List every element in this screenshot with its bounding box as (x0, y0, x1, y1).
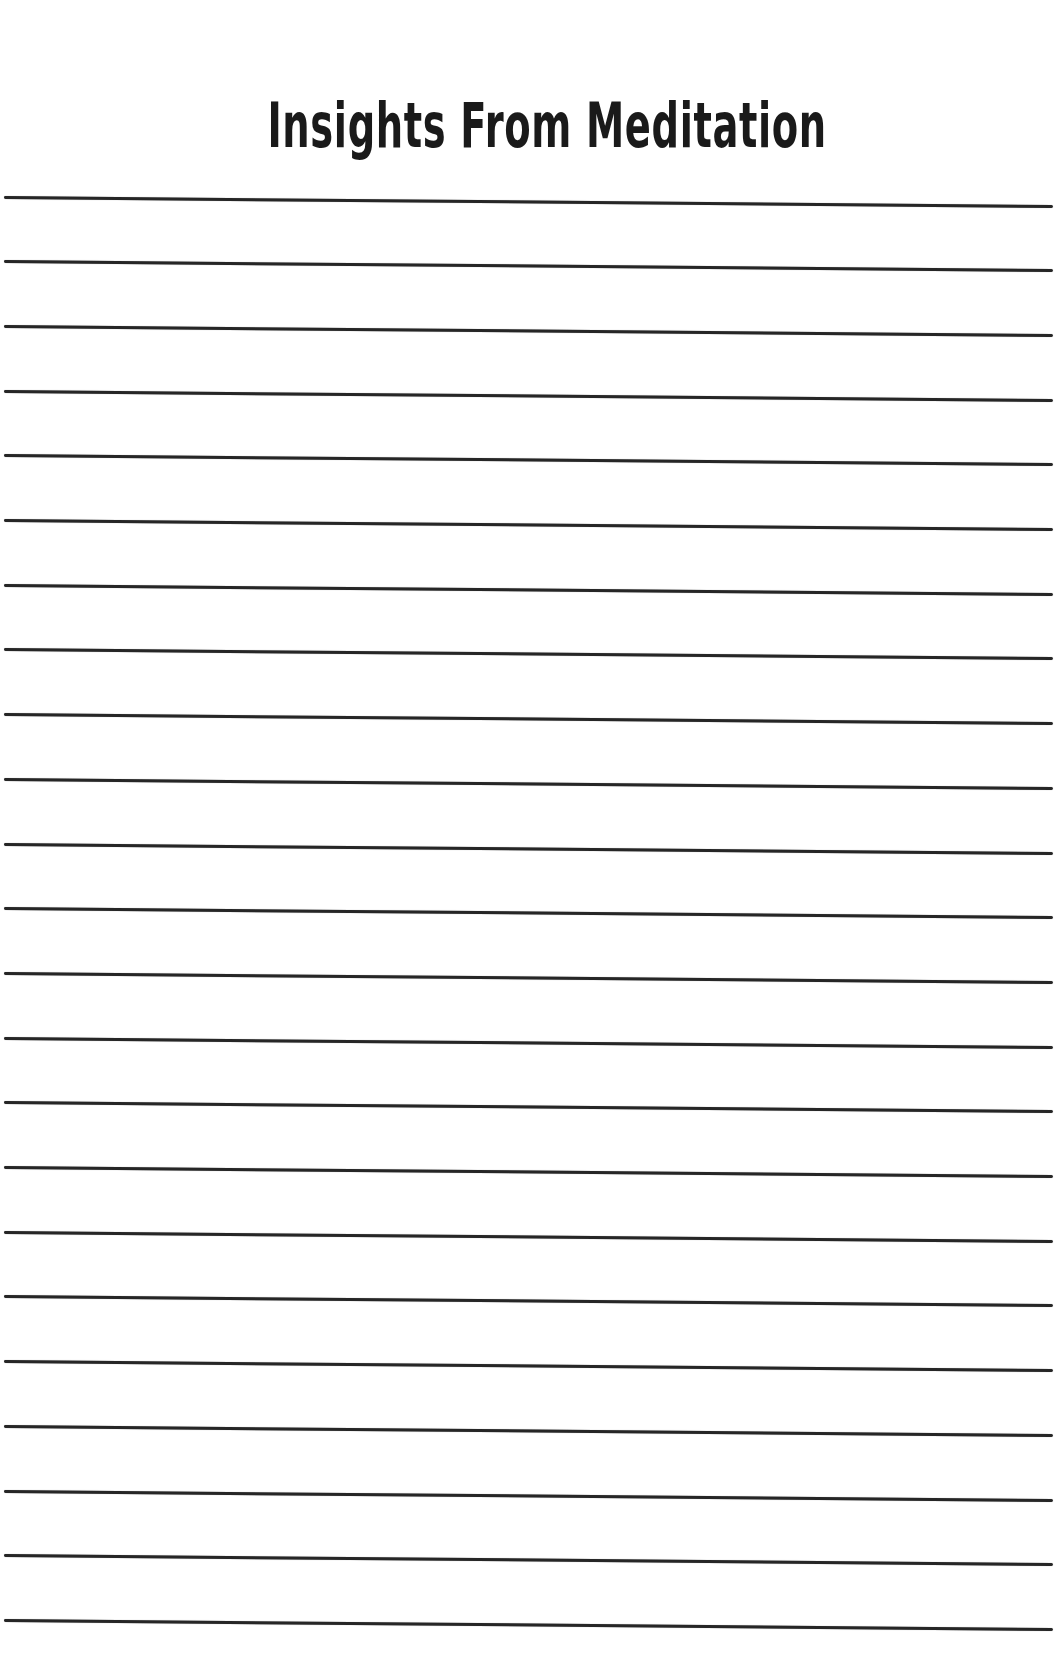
writing-line (4, 1490, 1053, 1502)
writing-line (4, 1295, 1053, 1307)
writing-line (4, 1360, 1053, 1372)
writing-line (4, 648, 1053, 660)
writing-line (4, 778, 1053, 790)
writing-line (4, 196, 1053, 208)
writing-line (4, 325, 1053, 337)
writing-line (4, 1425, 1053, 1437)
writing-line (4, 843, 1053, 855)
ruled-lines (0, 0, 1059, 1679)
writing-line (4, 519, 1053, 531)
writing-line (4, 1166, 1053, 1178)
writing-line (4, 1231, 1053, 1243)
writing-line (4, 907, 1053, 919)
writing-line (4, 454, 1053, 466)
writing-line (4, 584, 1053, 596)
writing-line (4, 972, 1053, 984)
writing-line (4, 1554, 1053, 1566)
writing-line (4, 1619, 1053, 1631)
writing-line (4, 1101, 1053, 1113)
writing-line (4, 1037, 1053, 1049)
writing-line (4, 260, 1053, 272)
journal-page: Insights From Meditation (0, 0, 1059, 1679)
writing-line (4, 713, 1053, 725)
writing-line (4, 390, 1053, 402)
